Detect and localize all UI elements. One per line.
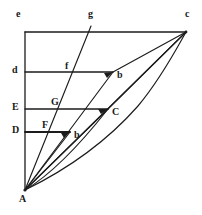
label-E: E — [12, 102, 19, 112]
label-C: C — [112, 107, 119, 117]
geometry-figure: e g c d f b E G C D F b A — [0, 0, 202, 215]
label-D: D — [12, 125, 19, 135]
label-f: f — [65, 61, 68, 71]
label-G: G — [51, 97, 59, 107]
label-g: g — [88, 9, 93, 19]
label-e: e — [16, 9, 20, 19]
label-d: d — [12, 65, 18, 75]
label-b-upper: b — [117, 70, 123, 80]
vertex-dot-A — [23, 188, 26, 191]
vertex-dot-c — [185, 31, 188, 34]
label-F: F — [42, 120, 48, 130]
figure-canvas — [0, 0, 202, 215]
label-c: c — [185, 9, 189, 19]
label-b-lower: b — [74, 130, 80, 140]
label-A: A — [19, 194, 26, 204]
